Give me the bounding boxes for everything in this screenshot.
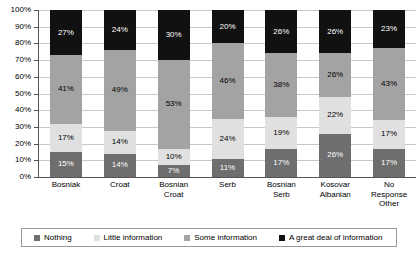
stacked-bar[interactable]: 26%26%22%26%: [319, 10, 351, 177]
bar-segment[interactable]: 38%: [265, 53, 297, 116]
legend-item-nothing[interactable]: Nothing: [34, 234, 72, 242]
bar-segment[interactable]: 19%: [265, 117, 297, 149]
x-axis-label-line: Albanian: [308, 190, 362, 200]
bar-value-label: 27%: [58, 29, 74, 37]
chart-container: 100%90%80%70%60%50%40%30%20%10%0% 27%41%…: [0, 0, 419, 253]
bar-value-label: 17%: [58, 134, 74, 142]
y-axis-tick-label: 40%: [15, 106, 31, 114]
y-axis-tick-label: 20%: [15, 140, 31, 148]
legend-label: Nothing: [44, 234, 72, 242]
bar-segment[interactable]: 24%: [212, 119, 244, 159]
bar-segment[interactable]: 30%: [158, 10, 190, 60]
bar-segment[interactable]: 14%: [104, 154, 136, 177]
bar-segment[interactable]: 7%: [158, 165, 190, 177]
legend-item-little-information[interactable]: Little information: [94, 234, 163, 242]
bar-segment[interactable]: 46%: [212, 43, 244, 119]
bar-value-label: 26%: [327, 28, 343, 36]
x-axis-label-line: Other: [362, 199, 416, 209]
bar-value-label: 7%: [168, 167, 180, 175]
x-axis-label-line: Serb: [201, 180, 255, 190]
bar-segment[interactable]: 17%: [50, 124, 82, 152]
x-axis-label-line: Croat: [147, 190, 201, 200]
legend-label: A great deal of information: [289, 234, 382, 242]
bar-segment[interactable]: 14%: [104, 131, 136, 154]
bar-value-label: 43%: [381, 80, 397, 88]
legend-item-a-great-deal-of-information[interactable]: A great deal of information: [279, 234, 382, 242]
bar-segment[interactable]: 43%: [373, 48, 405, 120]
x-axis-label-line: Kosovar: [308, 180, 362, 190]
bar-value-label: 19%: [273, 129, 289, 137]
y-axis-tick-label: 0%: [19, 173, 31, 181]
legend-item-some-information[interactable]: Some information: [184, 234, 257, 242]
stacked-bar[interactable]: 24%49%14%14%: [104, 10, 136, 177]
chart-legend: NothingLittle informationSome informatio…: [21, 228, 397, 247]
bar-segment[interactable]: 17%: [373, 149, 405, 177]
bar-segment[interactable]: 26%: [319, 53, 351, 96]
y-axis-tick-label: 50%: [15, 90, 31, 98]
x-axis-line: [38, 177, 416, 178]
bar-group-bosnian-croat[interactable]: 30%53%10%7%: [147, 10, 201, 177]
x-axis: BosniakCroatBosnianCroatSerbBosnianSerbK…: [39, 180, 416, 214]
x-axis-category-label: KosovarAlbanian: [308, 180, 362, 214]
bar-segment[interactable]: 26%: [265, 10, 297, 53]
bar-group-no-response-other[interactable]: 23%43%17%17%: [362, 10, 416, 177]
bar-value-label: 17%: [381, 130, 397, 138]
bar-segment[interactable]: 27%: [50, 10, 82, 55]
bar-segment[interactable]: 17%: [373, 120, 405, 148]
bar-value-label: 30%: [166, 31, 182, 39]
bar-value-label: 14%: [112, 138, 128, 146]
x-axis-category-label: Bosniak: [39, 180, 93, 214]
bar-group-croat[interactable]: 24%49%14%14%: [93, 10, 147, 177]
bar-segment[interactable]: 10%: [158, 149, 190, 166]
plot-area: 100%90%80%70%60%50%40%30%20%10%0% 27%41%…: [0, 0, 419, 215]
bar-group-bosnian-serb[interactable]: 26%38%19%17%: [254, 10, 308, 177]
bar-segment[interactable]: 26%: [319, 134, 351, 177]
bar-segment[interactable]: 11%: [212, 159, 244, 177]
bar-segment[interactable]: 23%: [373, 10, 405, 48]
bar-segment[interactable]: 22%: [319, 97, 351, 134]
bar-group-serb[interactable]: 20%46%24%11%: [201, 10, 255, 177]
bar-segment[interactable]: 53%: [158, 60, 190, 149]
x-axis-label-line: Response: [362, 190, 416, 200]
bar-value-label: 24%: [219, 135, 235, 143]
bar-segment[interactable]: 41%: [50, 55, 82, 123]
x-axis-category-label: BosnianCroat: [147, 180, 201, 214]
y-axis-tick-label: 70%: [15, 56, 31, 64]
stacked-bar[interactable]: 23%43%17%17%: [373, 10, 405, 177]
x-axis-category-label: Serb: [201, 180, 255, 214]
legend-swatch-icon: [184, 235, 190, 241]
x-axis-label-line: Serb: [254, 190, 308, 200]
bar-group-bosniak[interactable]: 27%41%17%15%: [39, 10, 93, 177]
bar-segment[interactable]: 26%: [319, 10, 351, 53]
bar-value-label: 41%: [58, 85, 74, 93]
bar-value-label: 24%: [112, 26, 128, 34]
x-axis-label-line: Bosnian: [147, 180, 201, 190]
bar-value-label: 23%: [381, 25, 397, 33]
x-axis-label-line: Croat: [93, 180, 147, 190]
x-axis-category-label: NoResponseOther: [362, 180, 416, 214]
bar-value-label: 38%: [273, 81, 289, 89]
bar-value-label: 15%: [58, 160, 74, 168]
legend-swatch-icon: [279, 235, 285, 241]
bar-group-kosovar-albanian[interactable]: 26%26%22%26%: [308, 10, 362, 177]
stacked-bar[interactable]: 30%53%10%7%: [158, 10, 190, 177]
legend-swatch-icon: [94, 235, 100, 241]
stacked-bar[interactable]: 20%46%24%11%: [212, 10, 244, 177]
bar-value-label: 22%: [327, 111, 343, 119]
x-axis-label-line: Bosniak: [39, 180, 93, 190]
bar-segment[interactable]: 49%: [104, 50, 136, 131]
bar-value-label: 11%: [220, 164, 235, 172]
x-axis-category-label: BosnianSerb: [254, 180, 308, 214]
legend-label: Some information: [194, 234, 257, 242]
bar-value-label: 53%: [166, 100, 182, 108]
bar-series-group: 27%41%17%15%24%49%14%14%30%53%10%7%20%46…: [39, 10, 416, 177]
bar-value-label: 46%: [219, 77, 235, 85]
y-axis-tick-label: 10%: [15, 156, 31, 164]
bar-segment[interactable]: 17%: [265, 149, 297, 177]
stacked-bar[interactable]: 26%38%19%17%: [265, 10, 297, 177]
bar-value-label: 17%: [273, 159, 289, 167]
bar-segment[interactable]: 15%: [50, 152, 82, 177]
bar-segment[interactable]: 24%: [104, 10, 136, 50]
stacked-bar[interactable]: 27%41%17%15%: [50, 10, 82, 177]
bar-segment[interactable]: 20%: [212, 10, 244, 43]
